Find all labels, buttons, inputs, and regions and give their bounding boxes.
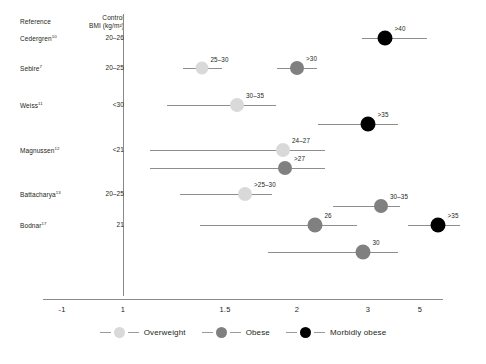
data-point-label: >27 [294, 155, 305, 162]
confidence-interval-line [362, 38, 427, 39]
data-point-label: >35 [448, 212, 459, 219]
column-header-control-bmi: Control BMI (kg/m²) [72, 14, 124, 30]
data-point-marker [378, 31, 393, 46]
control-bmi-value: <21 [72, 146, 124, 153]
reference-citation-superscript: 17 [42, 221, 47, 226]
legend-label: Morbidly obese [330, 328, 386, 337]
reference-citation-superscript: 12 [55, 146, 60, 151]
control-bmi-value: 21 [72, 221, 124, 228]
data-point-marker [278, 161, 292, 175]
legend-line-left [286, 332, 297, 333]
data-point-label: 26 [325, 212, 332, 219]
legend-line-right [128, 332, 139, 333]
data-point-marker [356, 245, 371, 260]
legend: OverweightObeseMorbidly obese [0, 327, 486, 338]
control-header-line2: BMI (kg/m²) [72, 22, 124, 30]
reference-label: Weiss11 [20, 101, 43, 109]
legend-item: Overweight [100, 327, 186, 338]
legend-line-right [314, 332, 325, 333]
legend-label: Overweight [144, 328, 186, 337]
legend-item: Obese [202, 327, 270, 338]
data-point-marker [196, 62, 209, 75]
confidence-interval-line [150, 168, 325, 169]
data-point-label: >40 [395, 25, 406, 32]
data-point-marker [238, 187, 252, 201]
reference-label: Sebire7 [20, 64, 42, 72]
x-tick-label: 1.5 [219, 305, 230, 314]
data-point-label: 30–35 [246, 92, 264, 99]
data-point-label: 24–27 [292, 137, 310, 144]
legend-line-right [230, 332, 241, 333]
data-point-label: >25–30 [254, 181, 276, 188]
reference-citation-superscript: 11 [38, 101, 43, 106]
reference-label: Bodnar17 [20, 221, 47, 229]
data-point-label: 30 [373, 239, 380, 246]
confidence-interval-line [333, 206, 400, 207]
column-header-reference: Reference [20, 18, 51, 26]
confidence-interval-line [200, 225, 357, 226]
reference-line-x1 [123, 14, 124, 296]
data-point-label: >30 [306, 55, 317, 62]
reference-label: Battacharya13 [20, 190, 61, 198]
forest-plot: Reference Control BMI (kg/m²) Cedergren1… [0, 0, 486, 364]
legend-marker [300, 327, 311, 338]
legend-item: Morbidly obese [286, 327, 386, 338]
data-point-label: 30–35 [390, 193, 408, 200]
x-tick-label: -1 [58, 305, 65, 314]
confidence-interval-line [268, 252, 398, 253]
data-point-marker [230, 98, 244, 112]
data-point-marker [361, 117, 376, 132]
x-axis-line [43, 299, 443, 300]
x-tick-label: 3 [366, 305, 370, 314]
confidence-interval-line [318, 124, 398, 125]
data-point-marker [374, 199, 388, 213]
control-header-line1: Control [72, 14, 124, 22]
data-point-label: 25–30 [211, 56, 229, 63]
data-point-marker [308, 218, 323, 233]
legend-label: Obese [246, 328, 270, 337]
data-point-marker [290, 61, 304, 75]
reference-citation-superscript: 13 [56, 190, 61, 195]
legend-marker [114, 327, 125, 338]
confidence-interval-line [150, 150, 325, 151]
confidence-interval-line [167, 105, 276, 106]
data-point-label: >35 [378, 111, 389, 118]
x-tick-label: 5 [418, 305, 422, 314]
data-point-marker [431, 218, 446, 233]
reference-citation-superscript: 7 [39, 64, 42, 69]
control-bmi-value: 20–25 [72, 190, 124, 197]
legend-line-left [202, 332, 213, 333]
control-bmi-value: <30 [72, 101, 124, 108]
legend-marker [216, 327, 227, 338]
x-tick-label: 2 [295, 305, 299, 314]
control-bmi-value: 20–26 [72, 34, 124, 41]
confidence-interval-line [180, 194, 272, 195]
legend-line-left [100, 332, 111, 333]
reference-citation-superscript: 10 [52, 34, 57, 39]
reference-label: Cedergren10 [20, 34, 57, 42]
data-point-marker [276, 143, 290, 157]
reference-label: Magnussen12 [20, 146, 60, 154]
x-tick-label: 1 [121, 305, 125, 314]
control-bmi-value: 20–25 [72, 64, 124, 71]
